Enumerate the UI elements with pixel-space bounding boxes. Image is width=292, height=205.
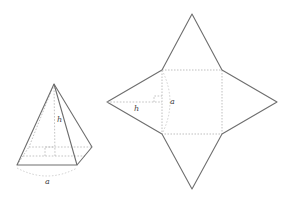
pyramid-figure: h a h a xyxy=(0,0,292,205)
net-top-triangle xyxy=(162,14,222,70)
net-right-triangle xyxy=(222,70,277,134)
pyramid-front-face xyxy=(17,84,77,165)
pyramid-right-angle-mark xyxy=(45,147,55,156)
net-height-label: h xyxy=(134,104,139,113)
net-side-arc xyxy=(162,70,170,134)
pyramid-height-line xyxy=(54,84,55,156)
pyramid-3d: h a xyxy=(17,84,92,186)
net-right-angle-mark xyxy=(154,96,162,102)
pyramid-base-label: a xyxy=(45,177,50,186)
pyramid-base-arc xyxy=(17,168,77,176)
pyramid-net: h a xyxy=(107,14,277,189)
net-side-label: a xyxy=(170,97,175,106)
net-bottom-triangle xyxy=(162,134,222,189)
pyramid-height-label: h xyxy=(57,115,62,124)
